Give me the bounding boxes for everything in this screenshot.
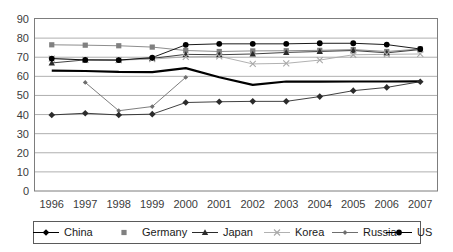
y-tick-label: 80: [17, 32, 29, 44]
x-tick-label: 1996: [40, 198, 64, 210]
x-tick-label: 2000: [174, 198, 198, 210]
y-tick-label: 40: [17, 109, 29, 121]
data-point-marker: [216, 41, 222, 47]
data-point-marker: [116, 43, 121, 48]
legend: ChinaGermanyJapanKoreaRussiaUS: [33, 222, 432, 244]
data-point-marker: [283, 41, 289, 47]
y-tick-label: 90: [17, 13, 29, 25]
data-point-marker: [116, 57, 122, 63]
y-axis-tick-labels: 0102030405060708090: [17, 13, 29, 197]
data-point-marker: [49, 56, 55, 62]
y-tick-label: 60: [17, 70, 29, 82]
data-point-marker: [83, 43, 88, 48]
x-tick-label: 2003: [274, 198, 298, 210]
data-point-marker: [149, 55, 155, 61]
x-tick-label: 2006: [375, 198, 399, 210]
legend-label: US: [417, 226, 432, 238]
data-point-marker: [396, 230, 402, 236]
x-tick-label: 2002: [241, 198, 265, 210]
data-point-marker: [250, 41, 256, 47]
data-point-marker: [317, 40, 323, 46]
x-tick-label: 1997: [73, 198, 97, 210]
legend-label: Japan: [223, 226, 253, 238]
data-point-marker: [384, 42, 390, 48]
legend-label: Russia: [363, 226, 398, 238]
x-tick-label: 1999: [140, 198, 164, 210]
legend-label: China: [64, 226, 94, 238]
data-point-marker: [49, 42, 54, 47]
y-tick-label: 10: [17, 166, 29, 178]
y-tick-label: 20: [17, 147, 29, 159]
data-point-marker: [183, 42, 189, 48]
x-tick-label: 1998: [107, 198, 131, 210]
data-point-marker: [150, 44, 155, 49]
y-tick-label: 0: [23, 185, 29, 197]
data-point-marker: [121, 230, 126, 235]
y-tick-label: 70: [17, 51, 29, 63]
legend-label: Korea: [295, 226, 325, 238]
x-tick-label: 2001: [207, 198, 231, 210]
data-point-marker: [417, 46, 423, 52]
x-tick-label: 2005: [341, 198, 365, 210]
line-chart: 0102030405060708090 19961997199819992000…: [0, 0, 453, 252]
y-tick-label: 30: [17, 128, 29, 140]
x-axis-tick-labels: 1996199719981999200020012002200320042005…: [40, 198, 433, 210]
chart-canvas: 0102030405060708090 19961997199819992000…: [0, 0, 453, 252]
x-tick-label: 2004: [308, 198, 332, 210]
legend-label: Germany: [142, 226, 188, 238]
data-point-marker: [82, 57, 88, 63]
y-tick-label: 50: [17, 89, 29, 101]
x-tick-label: 2007: [408, 198, 432, 210]
data-point-marker: [350, 40, 356, 46]
